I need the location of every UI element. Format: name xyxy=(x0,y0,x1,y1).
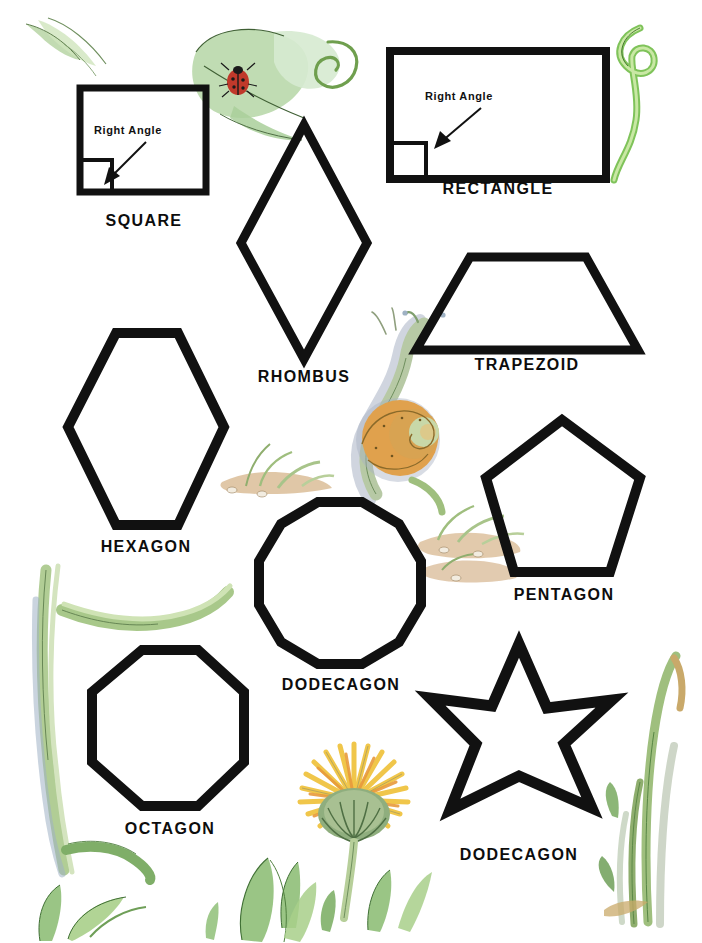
leaf-sprig-illustration xyxy=(18,18,128,88)
dandelion-flower-illustration xyxy=(272,738,437,933)
shape-hexagon[interactable] xyxy=(60,325,232,535)
label-octagon: OCTAGON xyxy=(78,820,262,838)
shape-trapezoid[interactable] xyxy=(408,250,646,358)
label-rectangle: RECTANGLE xyxy=(384,180,612,198)
shape-octagon[interactable] xyxy=(80,642,260,820)
label-trapezoid: TRAPEZOID xyxy=(408,356,646,374)
shape-dodecagon-star[interactable] xyxy=(424,636,614,836)
grass-leaves-illustration xyxy=(196,838,326,943)
shape-square[interactable] xyxy=(74,82,214,197)
shape-rectangle[interactable] xyxy=(384,45,612,185)
label-hexagon: HEXAGON xyxy=(58,538,234,556)
shape-dodecagon[interactable] xyxy=(250,493,430,673)
label-dodecagon-star: DODECAGON xyxy=(424,846,614,864)
shape-rhombus[interactable] xyxy=(234,118,374,366)
label-dodecagon: DODECAGON xyxy=(246,676,436,694)
upright-grass-illustration xyxy=(604,636,702,926)
label-pentagon: PENTAGON xyxy=(474,586,654,604)
rectangle-right-angle-annotation: Right Angle xyxy=(425,90,493,102)
grass-leaves-illustration xyxy=(20,845,180,943)
square-right-angle-annotation: Right Angle xyxy=(94,124,162,136)
label-square: SQUARE xyxy=(74,212,214,230)
shape-pentagon[interactable] xyxy=(478,412,650,584)
label-rhombus: RHOMBUS xyxy=(234,368,374,386)
worksheet-page: Right Angle SQUARE Right Angle RECTANGLE… xyxy=(0,0,702,943)
